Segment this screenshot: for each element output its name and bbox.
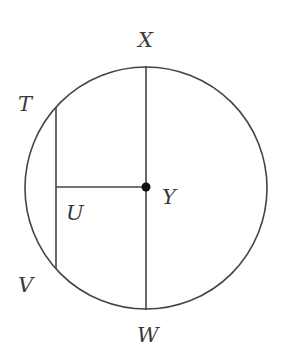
label-v: V [18,273,35,297]
label-y: Y [162,185,178,209]
label-x: X [136,28,154,52]
label-u: U [66,201,85,225]
label-t: T [18,92,34,116]
label-w: W [137,323,161,347]
circle-diagram: X T Y U V W [0,0,282,357]
center-point-y [142,183,151,192]
